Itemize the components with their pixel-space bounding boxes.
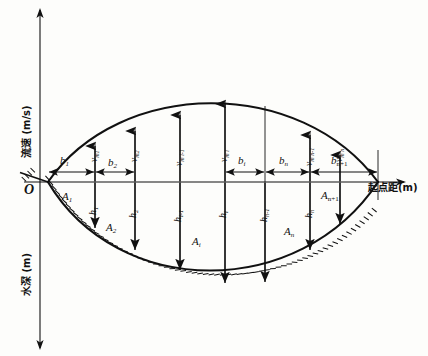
velocity-distribution-curve	[48, 103, 378, 182]
depth-label-hn: hn	[304, 210, 315, 218]
width-label-bn: bn	[279, 155, 288, 168]
depth-axis-label: 水深 (m)	[22, 253, 32, 296]
velocity-label-vmi-1: vm i-1	[175, 149, 185, 166]
area-label-An1: An+1	[321, 190, 339, 203]
velocity-label-vm1: vm1	[90, 150, 100, 162]
depth-label-h1: h1	[88, 207, 99, 215]
area-label-A2: A2	[106, 222, 116, 235]
area-label-A1: A1	[62, 191, 72, 204]
velocity-label-vm2: vm2	[130, 150, 140, 162]
horizontal-axis	[24, 178, 406, 185]
origin-label: O	[24, 183, 34, 197]
width-label-b2: b2	[108, 157, 117, 170]
area-label-An: An	[284, 226, 294, 239]
depth-label-hi: hi	[218, 211, 229, 218]
depth-arrows	[95, 183, 340, 283]
left-bank-hatching	[20, 168, 48, 182]
velocity-label-vmn: vm n	[335, 149, 345, 162]
distance-axis-label: 起点距(m)	[368, 183, 418, 193]
diagram-canvas	[0, 0, 428, 356]
depth-label-h2: h2	[128, 210, 139, 218]
depth-label-hn-1: hn-1	[259, 208, 270, 222]
width-label-b1: b1	[60, 155, 69, 168]
velocity-label-vmn-1: vm n-1	[305, 148, 315, 166]
area-label-Ai: Ai	[192, 236, 201, 249]
hydrology-cross-section-figure: 流速 (m/s) 水深 (m) 起点距(m) O b1 b2 bi bn bn+…	[0, 0, 428, 356]
velocity-label-vmi: vm i	[220, 150, 230, 162]
depth-label-hi-1: hi-1	[173, 210, 184, 222]
velocity-arrows	[95, 104, 340, 181]
velocity-axis-label: 流速 (m/s)	[22, 105, 32, 158]
width-label-bi: bi	[238, 155, 245, 168]
